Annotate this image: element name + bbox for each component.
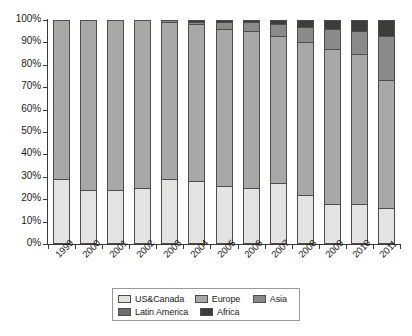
legend-item-latin-america: Latin America	[118, 307, 200, 317]
plot-area	[48, 20, 400, 244]
bar-segment-us-canada	[216, 186, 233, 244]
bar-segment-europe	[216, 29, 233, 186]
bar-segment-asia	[378, 36, 395, 81]
y-axis-tick-label: 90%	[21, 35, 41, 46]
bar-1999	[53, 20, 70, 244]
legend-label: Africa	[217, 307, 239, 317]
x-axis-tick-mark	[292, 245, 293, 249]
x-axis-tick-mark	[102, 245, 103, 249]
legend-row-2: Latin AmericaAfrica	[118, 305, 294, 318]
bar-2000	[80, 20, 97, 244]
legend-swatch	[253, 295, 266, 303]
bar-2005	[216, 20, 233, 244]
bar-segment-africa	[351, 20, 368, 31]
legend-swatch	[118, 308, 131, 316]
bar-2002	[134, 20, 151, 244]
y-axis-tick-label: 80%	[21, 58, 41, 69]
bar-segment-europe	[243, 31, 260, 188]
bar-segment-europe	[297, 42, 314, 194]
bar-2008	[297, 20, 314, 244]
y-axis-tick-label: 70%	[21, 80, 41, 91]
bar-2001	[107, 20, 124, 244]
y-axis-tick-label: 60%	[21, 103, 41, 114]
bar-segment-europe	[161, 22, 178, 179]
bar-segment-us-canada	[134, 188, 151, 244]
y-axis-tick-label: 50%	[21, 125, 41, 136]
y-axis-tick-label: 10%	[21, 215, 41, 226]
bar-segment-asia	[351, 31, 368, 53]
bar-segment-europe	[270, 36, 287, 184]
chart-legend: US&CanadaEuropeAsia Latin AmericaAfrica	[112, 288, 300, 321]
bar-segment-europe	[107, 20, 124, 190]
bar-segment-us-canada	[297, 195, 314, 244]
legend-item-us-canada: US&Canada	[118, 294, 195, 304]
bar-2009	[324, 20, 341, 244]
stacked-bar-chart: 0%10%20%30%40%50%60%70%80%90%100% 199920…	[0, 0, 412, 336]
bar-segment-asia	[324, 29, 341, 49]
x-axis-tick-mark	[319, 245, 320, 249]
legend-label: US&Canada	[135, 294, 184, 304]
y-axis-tick-label: 0%	[27, 237, 41, 248]
bar-segment-europe	[53, 20, 70, 179]
bar-segment-europe	[351, 54, 368, 204]
legend-row-1: US&CanadaEuropeAsia	[118, 292, 294, 305]
x-axis-tick-mark	[183, 245, 184, 249]
bar-segment-europe	[324, 49, 341, 204]
bar-segment-asia	[216, 22, 233, 29]
x-axis-tick-mark	[48, 245, 49, 249]
bar-segment-us-canada	[53, 179, 70, 244]
legend-item-asia: Asia	[253, 294, 294, 304]
bar-segment-africa	[324, 20, 341, 29]
bar-segment-us-canada	[270, 183, 287, 243]
bar-2007	[270, 20, 287, 244]
y-axis-tick-label: 100%	[16, 13, 41, 24]
bar-segment-us-canada	[107, 190, 124, 244]
x-axis-tick-mark	[346, 245, 347, 249]
legend-item-europe: Europe	[195, 294, 253, 304]
legend-label: Latin America	[135, 307, 188, 317]
x-axis-tick-mark	[156, 245, 157, 249]
bar-segment-us-canada	[188, 181, 205, 244]
bar-segment-europe	[188, 24, 205, 181]
y-axis-tick-label: 20%	[21, 192, 41, 203]
bar-segment-africa	[297, 20, 314, 27]
x-axis-tick-mark	[129, 245, 130, 249]
bar-2010	[351, 20, 368, 244]
y-axis-tick-label: 40%	[21, 147, 41, 158]
legend-swatch	[195, 295, 208, 303]
x-axis-tick-mark	[400, 245, 401, 249]
bar-2004	[188, 20, 205, 244]
bar-segment-asia	[297, 27, 314, 43]
bar-segment-europe	[134, 20, 151, 188]
x-axis-tick-mark	[265, 245, 266, 249]
bar-2003	[161, 20, 178, 244]
bar-segment-us-canada	[243, 188, 260, 244]
x-axis-tick-mark	[75, 245, 76, 249]
bar-2011	[378, 20, 395, 244]
x-axis-tick-mark	[210, 245, 211, 249]
bar-segment-europe	[80, 20, 97, 190]
bar-segment-asia	[243, 22, 260, 31]
bar-segment-us-canada	[161, 179, 178, 244]
bar-segment-europe	[378, 80, 395, 208]
legend-label: Asia	[270, 294, 287, 304]
x-axis-tick-mark	[373, 245, 374, 249]
y-axis-tick-label: 30%	[21, 170, 41, 181]
bar-segment-us-canada	[80, 190, 97, 244]
legend-item-africa: Africa	[200, 307, 262, 317]
legend-swatch	[200, 308, 213, 316]
bar-segment-asia	[270, 24, 287, 35]
legend-label: Europe	[212, 294, 240, 304]
bar-2006	[243, 20, 260, 244]
legend-swatch	[118, 295, 131, 303]
bar-segment-africa	[378, 20, 395, 36]
x-axis-tick-mark	[238, 245, 239, 249]
